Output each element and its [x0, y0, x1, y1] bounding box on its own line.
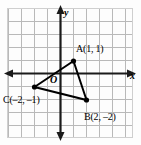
- vertex-a-label: A(1, 1): [76, 44, 103, 54]
- vertex-c-point: [32, 84, 37, 89]
- vertex-b-label: B(2, –2): [84, 112, 116, 122]
- vertex-c-label: C(–2, –1): [3, 95, 40, 105]
- coordinate-plane-figure: A(1, 1) B(2, –2) C(–2, –1) O x y: [0, 0, 141, 145]
- vertex-a-point: [71, 58, 76, 63]
- y-axis-label: y: [64, 8, 68, 18]
- origin-label: O: [50, 75, 57, 85]
- coordinate-plane-svg: [0, 0, 141, 145]
- x-axis-label: x: [130, 71, 135, 81]
- vertex-b-point: [84, 97, 89, 102]
